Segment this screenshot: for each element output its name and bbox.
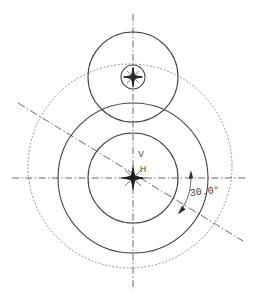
upper-center-star-icon <box>123 67 143 87</box>
drawing-svg: V H 30.0° <box>0 0 258 305</box>
axis-label-horizontal: H <box>140 164 146 174</box>
technical-drawing-canvas: V H 30.0° <box>0 0 258 305</box>
angle-datum-line <box>18 103 243 241</box>
axis-label-vertical: V <box>138 149 144 159</box>
angle-dimension-label: 30.0° <box>189 185 220 199</box>
angle-arrowhead-end <box>178 206 186 215</box>
angle-arrowhead-start <box>189 170 193 179</box>
